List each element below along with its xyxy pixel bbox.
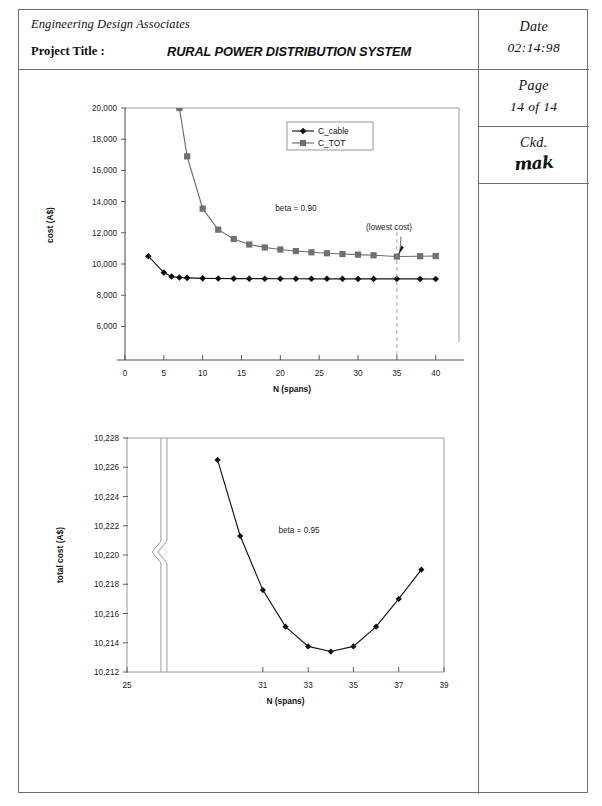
chart2-plot-border <box>127 438 444 672</box>
chart1-y-ticklabel: 10,000 <box>92 260 117 269</box>
chart1-y-axis-title: cost (A$) <box>45 207 55 243</box>
chart2-axis-break-2 <box>158 438 167 672</box>
c-tot-point <box>246 241 252 247</box>
chart1-x-ticklabel: 25 <box>315 369 325 378</box>
total-cost-point <box>214 457 220 463</box>
date-cell: Date 02:14:98 <box>479 10 589 70</box>
chart2-y-ticklabel: 10,222 <box>94 522 119 531</box>
chart1-x-ticklabel: 35 <box>392 369 402 378</box>
chart1-y-ticklabel: 16,000 <box>92 166 117 175</box>
c-cable-point <box>370 276 377 283</box>
chart2-y-ticklabel: 10,220 <box>94 551 119 560</box>
c-cable-point <box>230 275 237 282</box>
drawing-sheet: Engineering Design Associates Project Ti… <box>18 9 588 793</box>
chart2-x-ticklabel: 37 <box>394 681 404 690</box>
chart-total-cost-detail: 10,21210,21410,21610,21810,22010,22210,2… <box>19 410 478 740</box>
c-cable-point <box>293 275 300 282</box>
chart1-x-ticklabel: 10 <box>198 369 208 378</box>
c-cable-point <box>199 275 206 282</box>
c-cable-point <box>176 274 183 281</box>
chart2-y-ticklabel: 10,214 <box>94 639 119 648</box>
c-tot-point <box>184 153 190 159</box>
chart1-y-ticklabel: 14,000 <box>92 198 117 207</box>
chart2-y-ticklabel: 10,212 <box>94 668 119 677</box>
total-cost-point <box>328 648 334 654</box>
c-tot-point <box>277 246 283 252</box>
chart2-x-ticklabel: 39 <box>439 681 449 690</box>
c-tot-point <box>370 252 376 258</box>
title-block: Engineering Design Associates Project Ti… <box>19 10 478 70</box>
chart1-x-ticklabel: 15 <box>237 369 247 378</box>
c-tot-point <box>324 250 330 256</box>
c-cable-point <box>355 276 362 283</box>
series-line-c-cable <box>148 256 435 279</box>
c-cable-point <box>339 276 346 283</box>
page-value: 14 of 14 <box>479 99 589 115</box>
c-cable-point <box>417 276 424 283</box>
c-cable-point <box>324 276 331 283</box>
project-title-label: Project Title : <box>31 44 105 59</box>
c-cable-point <box>277 275 284 282</box>
chart2-x-ticklabel: 35 <box>349 681 359 690</box>
c-cable-point <box>168 273 175 280</box>
chart2-y-ticklabel: 10,216 <box>94 610 119 619</box>
c-cable-point <box>308 276 315 283</box>
date-value: 02:14:98 <box>479 40 589 56</box>
chart2-y-ticklabel: 10,228 <box>94 434 119 443</box>
blank-cell <box>479 184 589 794</box>
chart1-y-ticklabel: 8,000 <box>97 291 118 300</box>
c-tot-point <box>231 236 237 242</box>
chart2-x-axis-title: N (spans) <box>266 696 304 706</box>
chart1-x-ticklabel: 5 <box>162 369 167 378</box>
page-label: Page <box>479 78 589 94</box>
c-tot-point <box>215 227 221 233</box>
chart1-x-ticklabel: 30 <box>353 369 363 378</box>
chart1-x-ticklabel: 20 <box>276 369 286 378</box>
page-cell: Page 14 of 14 <box>479 70 589 127</box>
c-cable-point <box>246 275 253 282</box>
c-cable-point <box>432 276 439 283</box>
checked-cell: Ckd. mak <box>479 127 589 184</box>
chart1-y-ticklabel: 6,000 <box>97 322 118 331</box>
c-cable-point <box>184 275 191 282</box>
c-tot-point <box>355 252 361 258</box>
chart2-y-ticklabel: 10,226 <box>94 463 119 472</box>
legend-label-c-cable: C_cable <box>318 126 349 136</box>
chart2-y-axis-title: total cost (A$) <box>55 527 65 583</box>
legend-marker-c-tot <box>300 140 306 146</box>
chart-cost-vs-spans: 6,0008,00010,00012,00014,00016,00018,000… <box>19 70 478 410</box>
c-cable-point <box>215 275 222 282</box>
c-tot-point <box>417 253 423 259</box>
chart2-y-ticklabel: 10,218 <box>94 580 119 589</box>
checked-label: Ckd. <box>479 135 589 151</box>
chart2-x-ticklabel: 31 <box>258 681 268 690</box>
total-cost-point <box>237 533 243 539</box>
project-title-value: RURAL POWER DISTRIBUTION SYSTEM <box>167 44 411 59</box>
chart1-beta-annotation: beta = 0.90 <box>275 204 317 213</box>
chart2-beta-annotation: beta = 0.95 <box>278 526 320 535</box>
chart1-y-ticklabel: 20,000 <box>92 104 117 113</box>
chart1-x-ticklabel: 40 <box>431 369 441 378</box>
c-tot-point <box>308 249 314 255</box>
legend-label-c-tot: C_TOT <box>318 138 345 148</box>
c-tot-point <box>339 251 345 257</box>
chart2-x-ticklabel: 33 <box>304 681 314 690</box>
lowest-cost-arrowhead <box>398 246 404 256</box>
drawing-area: 6,0008,00010,00012,00014,00016,00018,000… <box>19 70 478 794</box>
chart2-y-ticklabel: 10,224 <box>94 493 119 502</box>
chart2-axis-break-1 <box>152 438 161 672</box>
c-tot-point <box>262 244 268 250</box>
chart1-x-axis-title: N (spans) <box>273 384 311 394</box>
lowest-cost-annotation: (lowest cost) <box>366 223 412 232</box>
total-cost-point <box>260 587 266 593</box>
chart1-x-ticklabel: 0 <box>123 369 128 378</box>
c-tot-point <box>176 105 182 111</box>
chart2-x-ticklabel: 25 <box>122 681 132 690</box>
checked-signature: mak <box>478 149 589 177</box>
chart1-y-ticklabel: 18,000 <box>92 135 117 144</box>
c-cable-point <box>262 275 269 282</box>
series-line-total-cost <box>218 460 422 652</box>
title-block-info-column: Date 02:14:98 Page 14 of 14 Ckd. mak <box>478 10 589 794</box>
date-label: Date <box>479 19 589 35</box>
chart1-y-ticklabel: 12,000 <box>92 229 117 238</box>
